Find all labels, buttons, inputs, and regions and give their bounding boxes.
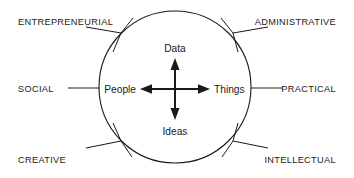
outer-label-entrepreneurial: ENTREPRENEURIAL: [18, 17, 113, 27]
axis-label-people: People: [104, 84, 136, 95]
arrow-head-up-icon: [171, 58, 180, 70]
outer-label-intellectual: INTELLECTUAL: [264, 155, 336, 165]
diagram-canvas: ENTREPRENEURIAL ADMINISTRATIVE SOCIAL PR…: [0, 0, 354, 178]
connector-intellectual-b: [222, 141, 233, 157]
connector-administrative-b: [221, 18, 233, 33]
axis-label-ideas: Ideas: [163, 126, 188, 137]
outer-label-practical: PRACTICAL: [281, 84, 336, 94]
arrow-head-down-icon: [171, 108, 180, 120]
outer-label-social: SOCIAL: [18, 84, 54, 94]
connector-entrepreneurial-a: [86, 27, 121, 33]
connector-intellectual-a: [233, 141, 268, 148]
arrow-head-right-icon: [198, 84, 210, 93]
outer-label-administrative: ADMINISTRATIVE: [255, 17, 336, 27]
connector-administrative-a: [233, 27, 268, 33]
arrow-head-left-icon: [140, 84, 152, 93]
work-interests-diagram: ENTREPRENEURIAL ADMINISTRATIVE SOCIAL PR…: [0, 0, 354, 178]
connector-intellectual-c: [233, 123, 238, 141]
axis-label-data: Data: [164, 43, 186, 54]
outer-label-creative: CREATIVE: [18, 155, 66, 165]
connector-creative-a: [86, 141, 121, 148]
connector-entrepreneurial-c: [113, 33, 121, 52]
axis-label-things: Things: [214, 84, 245, 95]
